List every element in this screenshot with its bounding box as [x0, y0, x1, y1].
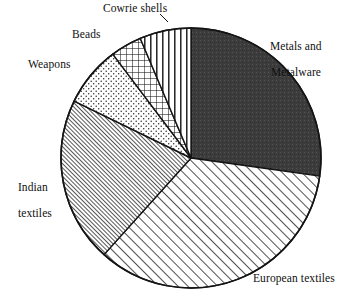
slice-label-metals-line2: Metalware — [258, 66, 322, 79]
slice-label-metals-line1: Metals and — [270, 40, 322, 52]
pie-chart: Cowrie shells Beads Weapons Indian texti… — [0, 0, 361, 304]
slice-label-metals-and-metalware: Metals and Metalware — [258, 27, 322, 105]
slice-label-cowrie-shells: Cowrie shells — [103, 2, 167, 15]
slice-label-indian-textiles-line2: textiles — [18, 207, 52, 219]
slice-label-indian-textiles-line1: Indian — [18, 181, 48, 193]
slice-label-weapons: Weapons — [28, 58, 71, 71]
label-leader-lines — [160, 14, 168, 22]
slice-label-european-textiles: European textiles — [253, 272, 335, 285]
slice-label-beads: Beads — [72, 28, 101, 41]
slice-label-indian-textiles: Indian textiles — [6, 168, 52, 233]
